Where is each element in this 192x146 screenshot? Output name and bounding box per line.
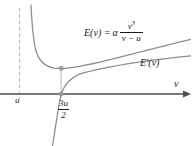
minimum-point-marker — [59, 66, 64, 71]
three-u-over-two-fraction: 3u 2 — [58, 99, 69, 120]
formula-fraction: v3 v − u — [120, 22, 143, 43]
formula-alpha: α — [112, 28, 117, 38]
zero-crossing-marker — [59, 92, 64, 97]
curve-E-prime-of-v — [53, 56, 192, 146]
tick-label-u: u — [15, 96, 20, 105]
formula-label: E(v) = α v3 v − u — [84, 22, 143, 43]
formula-lhs: E(v) = — [84, 28, 110, 38]
energy-curve-figure: E(v) = α v3 v − u E′(v) v u 3u 2 — [0, 0, 191, 146]
formula-exponent: 3 — [132, 19, 135, 26]
formula-denominator: v − u — [120, 33, 143, 43]
derivative-curve-label: E′(v) — [140, 58, 159, 68]
three-u-numerator: 3u — [58, 99, 69, 109]
three-u-denominator: 2 — [60, 110, 67, 120]
x-axis-arrowhead — [183, 90, 191, 97]
x-axis-label: v — [174, 79, 178, 89]
tick-label-three-u-over-two: 3u 2 — [58, 99, 69, 120]
formula-numerator: v3 — [126, 22, 137, 32]
